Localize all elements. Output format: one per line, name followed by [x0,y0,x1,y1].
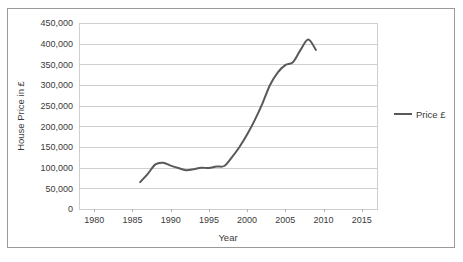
x-tick-label: 1990 [161,215,181,225]
data-series-price [140,40,316,183]
y-tick-label: 150,000 [40,142,73,152]
chart-legend: Price £ [394,109,446,120]
x-axis-tick-labels: 19801985199019952000200520102015 [84,215,371,225]
x-tick-label: 2010 [313,215,333,225]
y-axis-tick-labels: 050,000100,000150,000200,000250,000300,0… [40,18,73,214]
y-tick-label: 0 [68,204,73,214]
x-tick-label: 1985 [122,215,142,225]
x-tick-label: 1980 [84,215,104,225]
y-tick-label: 350,000 [40,60,73,70]
y-tick-label: 300,000 [40,80,73,90]
line-chart: 050,000100,000150,000200,000250,000300,0… [8,9,454,247]
x-tick-label: 2000 [237,215,257,225]
y-tick-label: 200,000 [40,122,73,132]
x-tick-label: 2005 [275,215,295,225]
plot-area-border [79,23,377,209]
legend-label-price: Price £ [416,109,446,120]
x-tick-label: 2015 [352,215,372,225]
x-tick-label: 1995 [199,215,219,225]
gridlines-group [79,24,377,210]
y-tick-label: 100,000 [40,163,73,173]
x-axis-title: Year [218,232,237,243]
y-axis-title: House Price in £ [15,80,26,150]
y-tick-label: 50,000 [45,184,73,194]
y-tick-label: 400,000 [40,39,73,49]
y-tick-label: 250,000 [40,101,73,111]
chart-container: 050,000100,000150,000200,000250,000300,0… [7,8,455,248]
y-tick-label: 450,000 [40,18,73,28]
